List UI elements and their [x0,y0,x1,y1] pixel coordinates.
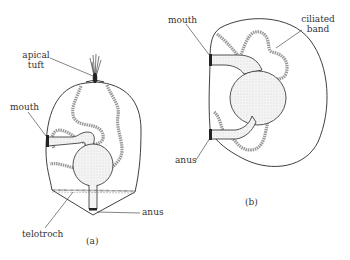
mouth-marker-a [46,135,49,147]
stomach-b [230,71,286,125]
label-apical-text: apical [18,50,54,60]
label-anus-a: anus [142,207,164,217]
caption-b: (b) [245,197,258,207]
caption-a: (a) [86,236,98,246]
intestine-a [89,185,97,209]
stomach-a [73,144,113,186]
label-telotroch: telotroch [22,229,63,239]
label-mouth-a: mouth [10,102,39,112]
label-tuft-text: tuft [18,60,54,70]
label-mouth-b: mouth [168,15,197,25]
diagram-drawing [0,0,350,260]
larva-b [209,19,327,167]
label-ciliated-band: ciliated band [298,14,338,34]
apical-tuft-icon [86,54,104,83]
label-anus-b: anus [175,155,197,165]
larva-a [46,54,141,215]
label-band-text: band [298,24,338,34]
larva-diagram: apical tuft mouth telotroch anus (a) mou… [0,0,350,260]
label-apical-tuft: apical tuft [18,50,54,70]
mouth-marker-b [209,54,212,66]
label-ciliated-text: ciliated [298,14,338,24]
